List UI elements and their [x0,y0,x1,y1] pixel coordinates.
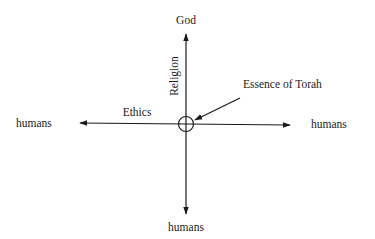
label-left-humans: humans [16,117,52,129]
ethics-religion-diagram: God humans humans humans Ethics Religion… [0,0,375,239]
axis-right-arrow [186,124,290,125]
label-right-humans: humans [311,118,347,130]
callout-arrow [195,98,240,120]
label-religion: Religion [168,56,181,96]
axis-left-arrow [80,123,186,124]
label-essence-of-torah: Essence of Torah [243,78,322,90]
label-ethics: Ethics [123,106,152,118]
label-bottom-humans: humans [168,221,204,233]
label-top-god: God [176,14,196,26]
